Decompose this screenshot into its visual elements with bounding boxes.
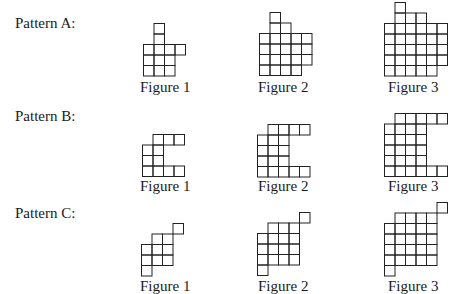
grid-cell	[268, 124, 279, 135]
grid-cell	[427, 44, 438, 55]
grid-cell	[289, 244, 300, 255]
grid-cell	[406, 223, 417, 234]
figure-label: Figure 2	[258, 278, 308, 294]
grid-cell	[152, 244, 163, 255]
grid-cell	[395, 23, 406, 34]
grid-cell	[395, 114, 406, 125]
grid-cell	[395, 145, 406, 156]
grid-cell	[406, 44, 417, 55]
grid-cell	[143, 145, 154, 156]
grid-cell	[289, 166, 300, 177]
figure-grid	[384, 113, 449, 178]
grid-cell	[279, 166, 290, 177]
grid-cell	[416, 145, 427, 156]
grid-cell	[300, 124, 311, 135]
grid-cell	[437, 55, 448, 66]
figure-grid	[384, 202, 449, 278]
grid-cell	[291, 55, 302, 66]
grid-cell	[406, 234, 417, 245]
grid-cell	[270, 23, 281, 34]
grid-cell	[279, 145, 290, 156]
grid-cell	[152, 234, 163, 245]
figure-label: Figure 1	[140, 278, 190, 294]
figure-grid	[142, 134, 186, 178]
grid-cell	[268, 145, 279, 156]
grid-cell	[427, 65, 438, 76]
grid-cell	[385, 234, 396, 245]
grid-cell	[395, 55, 406, 66]
grid-cell	[153, 156, 164, 167]
grid-cell	[258, 135, 269, 146]
figure-label: Figure 1	[140, 178, 190, 194]
grid-cell	[258, 166, 269, 177]
grid-cell	[260, 55, 271, 66]
grid-cell	[427, 244, 438, 255]
grid-cell	[165, 44, 176, 55]
grid-cell	[279, 124, 290, 135]
grid-cell	[258, 265, 269, 276]
grid-cell	[395, 2, 406, 13]
grid-cell	[406, 145, 417, 156]
grid-cell	[395, 65, 406, 76]
grid-cell	[395, 255, 406, 266]
figure-label: Figure 3	[388, 79, 438, 95]
grid-cell	[300, 166, 311, 177]
grid-cell	[416, 166, 427, 177]
grid-cell	[142, 255, 153, 266]
figure-label: Figure 3	[388, 178, 438, 194]
grid-cell	[437, 44, 448, 55]
grid-cell	[153, 166, 164, 177]
grid-cell	[154, 55, 165, 66]
grid-cell	[144, 44, 155, 55]
grid-cell	[279, 234, 290, 245]
grid-cell	[395, 44, 406, 55]
grid-cell	[291, 65, 302, 76]
grid-cell	[416, 13, 427, 24]
grid-cell	[427, 114, 438, 125]
grid-cell	[416, 55, 427, 66]
grid-cell	[279, 255, 290, 266]
grid-cell	[268, 255, 279, 266]
grid-cell	[270, 65, 281, 76]
grid-cell	[385, 145, 396, 156]
grid-cell	[281, 55, 292, 66]
grid-cell	[281, 44, 292, 55]
grid-cell	[142, 265, 153, 276]
grid-cell	[395, 135, 406, 146]
grid-cell	[289, 234, 300, 245]
grid-cell	[406, 34, 417, 45]
grid-cell	[416, 44, 427, 55]
grid-cell	[427, 34, 438, 45]
grid-cell	[385, 223, 396, 234]
grid-cell	[437, 166, 448, 177]
grid-cell	[437, 34, 448, 45]
grid-cell	[406, 244, 417, 255]
grid-cell	[268, 223, 279, 234]
grid-cell	[395, 156, 406, 167]
pattern-label: Pattern A:	[15, 15, 75, 31]
grid-cell	[427, 55, 438, 66]
grid-cell	[270, 34, 281, 45]
grid-cell	[385, 23, 396, 34]
grid-cell	[164, 135, 175, 146]
grid-cell	[268, 135, 279, 146]
grid-cell	[258, 255, 269, 266]
grid-cell	[175, 44, 186, 55]
grid-cell	[163, 234, 174, 245]
grid-cell	[258, 234, 269, 245]
pattern-label: Pattern B:	[15, 108, 75, 124]
grid-cell	[427, 166, 438, 177]
grid-cell	[163, 244, 174, 255]
grid-cell	[416, 255, 427, 266]
figure-label: Figure 3	[388, 278, 438, 294]
grid-cell	[395, 124, 406, 135]
grid-cell	[268, 166, 279, 177]
grid-cell	[258, 244, 269, 255]
grid-cell	[289, 223, 300, 234]
grid-cell	[406, 135, 417, 146]
grid-cell	[385, 34, 396, 45]
grid-cell	[416, 114, 427, 125]
grid-cell	[385, 166, 396, 177]
grid-cell	[154, 44, 165, 55]
grid-cell	[152, 255, 163, 266]
